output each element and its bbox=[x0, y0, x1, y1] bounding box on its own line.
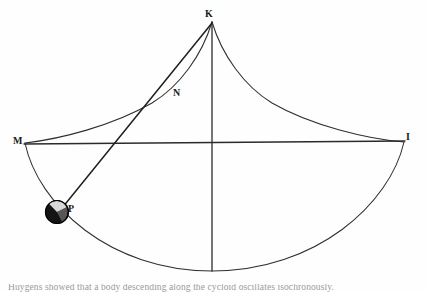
figure-page: K N M I P Huygens showed that a body des… bbox=[0, 0, 427, 292]
upper-right-cycloid-arc bbox=[212, 22, 404, 142]
figure-caption: Huygens showed that a body descending al… bbox=[8, 284, 334, 292]
lower-pendulum-arc bbox=[25, 142, 404, 271]
horizontal-axis bbox=[24, 141, 405, 144]
point-label-m: M bbox=[13, 136, 23, 146]
point-label-k: K bbox=[205, 9, 213, 19]
pendulum-bob-sphere bbox=[46, 201, 69, 224]
point-label-i: I bbox=[406, 132, 410, 142]
pendulum-cord bbox=[58, 23, 212, 213]
point-label-n: N bbox=[173, 88, 180, 98]
point-label-p: P bbox=[68, 204, 74, 214]
cycloid-diagram bbox=[0, 0, 427, 292]
caption-strip: Huygens showed that a body descending al… bbox=[0, 284, 427, 292]
upper-left-cycloid-arc bbox=[25, 22, 212, 143]
